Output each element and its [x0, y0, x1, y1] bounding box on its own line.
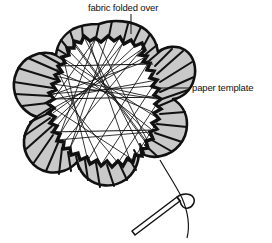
paper-piecing-illustration: fabric folded over paper template — [0, 0, 272, 243]
needle-body — [132, 197, 180, 235]
label-fabric-folded-over: fabric folded over — [88, 2, 158, 13]
paper-template-outline — [47, 36, 161, 167]
needle-and-thread — [132, 160, 194, 238]
label-paper-template: paper template — [192, 82, 253, 93]
paper-template-shape — [47, 36, 161, 167]
